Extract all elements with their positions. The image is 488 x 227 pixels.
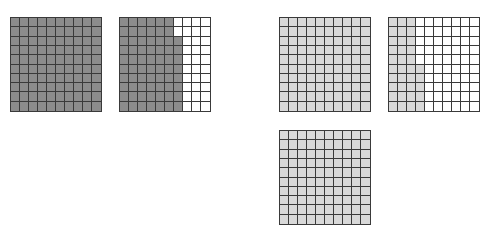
empty-cell <box>416 37 425 46</box>
shaded-cell <box>307 27 316 36</box>
shaded-cell <box>343 92 352 101</box>
shaded-cell <box>343 27 352 36</box>
shaded-cell <box>361 27 370 36</box>
shaded-cell <box>407 18 416 27</box>
shaded-cell <box>298 46 307 55</box>
shaded-cell <box>325 74 334 83</box>
shaded-cell <box>56 27 65 36</box>
shaded-cell <box>165 92 174 101</box>
shaded-cell <box>352 65 361 74</box>
shaded-cell <box>289 140 298 149</box>
shaded-cell <box>307 37 316 46</box>
empty-cell <box>192 46 201 55</box>
shaded-cell <box>352 187 361 196</box>
shaded-cell <box>316 65 325 74</box>
shaded-cell <box>298 215 307 224</box>
shaded-cell <box>83 74 92 83</box>
empty-cell <box>461 74 470 83</box>
shaded-cell <box>407 83 416 92</box>
shaded-cell <box>352 27 361 36</box>
empty-cell <box>461 55 470 64</box>
shaded-cell <box>92 37 101 46</box>
shaded-cell <box>361 159 370 168</box>
empty-cell <box>452 74 461 83</box>
shaded-cell <box>316 196 325 205</box>
shaded-cell <box>398 83 407 92</box>
shaded-cell <box>20 46 29 55</box>
shaded-cell <box>47 83 56 92</box>
shaded-cell <box>361 46 370 55</box>
empty-cell <box>201 92 210 101</box>
shaded-cell <box>407 92 416 101</box>
shaded-cell <box>74 37 83 46</box>
shaded-cell <box>307 150 316 159</box>
shaded-cell <box>389 92 398 101</box>
shaded-cell <box>307 196 316 205</box>
empty-cell <box>174 27 183 36</box>
shaded-cell <box>389 83 398 92</box>
empty-cell <box>443 65 452 74</box>
empty-cell <box>416 46 425 55</box>
shaded-cell <box>316 18 325 27</box>
shaded-cell <box>316 55 325 64</box>
shaded-cell <box>361 102 370 111</box>
shaded-cell <box>120 83 129 92</box>
shaded-cell <box>74 74 83 83</box>
empty-cell <box>434 18 443 27</box>
shaded-cell <box>398 18 407 27</box>
empty-cell <box>470 18 479 27</box>
shaded-cell <box>307 18 316 27</box>
shaded-cell <box>280 65 289 74</box>
shaded-cell <box>325 178 334 187</box>
shaded-cell <box>289 215 298 224</box>
empty-cell <box>443 27 452 36</box>
shaded-cell <box>47 27 56 36</box>
empty-cell <box>434 27 443 36</box>
empty-cell <box>201 55 210 64</box>
shaded-cell <box>343 215 352 224</box>
hundred-grid-diagram <box>0 0 488 227</box>
shaded-cell <box>38 46 47 55</box>
shaded-cell <box>280 131 289 140</box>
shaded-cell <box>156 102 165 111</box>
shaded-cell <box>147 27 156 36</box>
shaded-cell <box>138 37 147 46</box>
empty-cell <box>425 18 434 27</box>
shaded-cell <box>29 74 38 83</box>
shaded-cell <box>47 92 56 101</box>
empty-cell <box>192 55 201 64</box>
shaded-cell <box>325 196 334 205</box>
shaded-cell <box>325 18 334 27</box>
shaded-cell <box>307 92 316 101</box>
shaded-cell <box>20 55 29 64</box>
shaded-cell <box>147 46 156 55</box>
shaded-cell <box>352 92 361 101</box>
shaded-cell <box>174 55 183 64</box>
shaded-cell <box>65 65 74 74</box>
shaded-cell <box>147 18 156 27</box>
shaded-cell <box>325 46 334 55</box>
empty-cell <box>425 65 434 74</box>
shaded-cell <box>361 37 370 46</box>
empty-cell <box>425 83 434 92</box>
shaded-cell <box>174 74 183 83</box>
shaded-cell <box>165 27 174 36</box>
shaded-cell <box>352 131 361 140</box>
empty-cell <box>416 55 425 64</box>
shaded-cell <box>352 150 361 159</box>
shaded-cell <box>280 140 289 149</box>
shaded-cell <box>289 55 298 64</box>
shaded-cell <box>325 140 334 149</box>
shaded-cell <box>307 187 316 196</box>
shaded-cell <box>120 18 129 27</box>
shaded-cell <box>325 102 334 111</box>
shaded-cell <box>65 102 74 111</box>
shaded-cell <box>343 74 352 83</box>
shaded-cell <box>361 178 370 187</box>
shaded-cell <box>83 37 92 46</box>
shaded-cell <box>280 196 289 205</box>
empty-cell <box>425 27 434 36</box>
shaded-cell <box>298 140 307 149</box>
empty-cell <box>461 102 470 111</box>
shaded-cell <box>325 131 334 140</box>
